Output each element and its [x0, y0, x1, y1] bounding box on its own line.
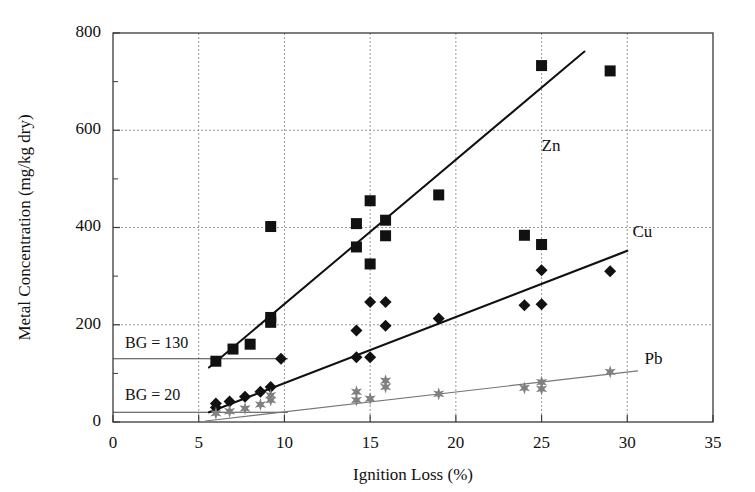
data-point-zn — [351, 218, 362, 229]
y-tick-label: 800 — [76, 22, 102, 41]
reference-line-label: BG = 130 — [125, 334, 188, 351]
x-tick-label: 10 — [276, 433, 293, 452]
data-point-zn — [536, 60, 547, 71]
data-point-zn — [351, 241, 362, 252]
series-label-zn: Zn — [542, 136, 561, 155]
x-tick-label: 15 — [362, 433, 379, 452]
x-tick-label: 20 — [447, 433, 464, 452]
data-point-zn — [365, 258, 376, 269]
data-point-zn — [228, 344, 239, 355]
series-label-cu: Cu — [632, 222, 652, 241]
y-tick-label: 0 — [93, 411, 102, 430]
y-tick-label: 600 — [76, 119, 102, 138]
y-axis-title: Metal Concentration (mg/kg dry) — [15, 114, 34, 340]
data-point-zn — [245, 339, 256, 350]
data-point-zn — [536, 239, 547, 250]
reference-line-label: BG = 20 — [125, 386, 180, 403]
data-point-zn — [265, 221, 276, 232]
x-tick-label: 35 — [705, 433, 722, 452]
x-tick-label: 25 — [533, 433, 550, 452]
x-axis-title: Ignition Loss (%) — [353, 465, 473, 484]
chart-figure: BG = 130BG = 200510152025303502004006008… — [0, 0, 755, 492]
data-point-zn — [365, 195, 376, 206]
y-tick-label: 400 — [76, 216, 102, 235]
data-point-zn — [433, 189, 444, 200]
series-label-pb: Pb — [644, 349, 662, 368]
scatter-plot-svg: BG = 130BG = 200510152025303502004006008… — [0, 0, 755, 492]
y-tick-label: 200 — [76, 314, 102, 333]
x-tick-label: 30 — [619, 433, 636, 452]
data-point-zn — [519, 230, 530, 241]
data-point-zn — [380, 215, 391, 226]
data-point-zn — [380, 230, 391, 241]
data-point-zn — [265, 312, 276, 323]
x-tick-label: 5 — [194, 433, 203, 452]
data-point-zn — [210, 356, 221, 367]
x-tick-label: 0 — [109, 433, 118, 452]
data-point-zn — [605, 65, 616, 76]
